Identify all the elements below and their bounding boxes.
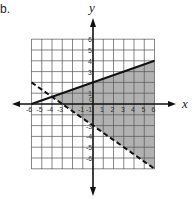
svg-text:3: 3 bbox=[121, 106, 125, 113]
svg-text:6: 6 bbox=[152, 106, 156, 113]
svg-text:-3: -3 bbox=[86, 123, 92, 130]
svg-text:-6: -6 bbox=[86, 155, 92, 162]
x-axis-right-arrow-icon bbox=[168, 101, 176, 107]
svg-text:2: 2 bbox=[111, 106, 115, 113]
svg-text:-4: -4 bbox=[86, 133, 92, 140]
y-axis-label: y bbox=[87, 0, 95, 15]
svg-text:6: 6 bbox=[88, 36, 92, 43]
svg-text:0: 0 bbox=[89, 96, 93, 103]
svg-text:-1: -1 bbox=[78, 106, 84, 113]
svg-text:-6: -6 bbox=[26, 106, 32, 113]
svg-text:1: 1 bbox=[88, 90, 92, 97]
coordinate-plane: x y -6 -5 -4 -3 -1 0 1 2 3 4 5 6 6 5 4 3… bbox=[0, 0, 192, 199]
svg-text:4: 4 bbox=[131, 106, 135, 113]
svg-text:-5: -5 bbox=[86, 144, 92, 151]
svg-text:3: 3 bbox=[88, 69, 92, 76]
x-axis-left-arrow-icon bbox=[12, 101, 20, 107]
svg-text:5: 5 bbox=[142, 106, 146, 113]
svg-text:-4: -4 bbox=[47, 106, 53, 113]
svg-text:-5: -5 bbox=[37, 106, 43, 113]
svg-text:1: 1 bbox=[100, 106, 104, 113]
svg-text:5: 5 bbox=[88, 47, 92, 54]
svg-text:-3: -3 bbox=[57, 106, 63, 113]
x-axis-label: x bbox=[181, 96, 188, 111]
svg-text:4: 4 bbox=[88, 58, 92, 65]
y-axis-down-arrow-icon bbox=[90, 187, 96, 196]
y-axis-up-arrow-icon bbox=[90, 18, 96, 27]
svg-text:-1: -1 bbox=[86, 106, 92, 113]
